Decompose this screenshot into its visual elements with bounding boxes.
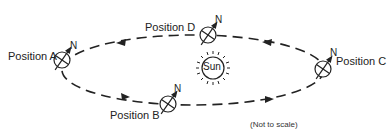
- orbit-path: [62, 35, 324, 105]
- north-label-b: N: [174, 83, 181, 94]
- arrow-top-right-icon: [262, 39, 272, 46]
- position-d-label: Position D: [145, 21, 195, 33]
- arrow-bottom-right-icon: [265, 96, 274, 103]
- orbit-arrows: [116, 39, 274, 103]
- position-a-label: Position A: [8, 50, 57, 62]
- sun-label: Sun: [203, 61, 221, 72]
- north-label-d: N: [215, 14, 222, 25]
- position-b-label: Position B: [110, 109, 160, 121]
- position-c-label: Position C: [336, 55, 386, 67]
- not-to-scale-note: (Not to scale): [250, 120, 298, 129]
- orbit-diagram: [0, 0, 389, 133]
- arrow-bottom-left-icon: [121, 93, 130, 100]
- north-label-a: N: [70, 40, 77, 51]
